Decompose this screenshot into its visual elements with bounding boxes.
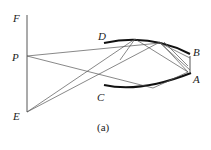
reflection-7 (160, 43, 190, 58)
label-f: F (12, 12, 20, 24)
reflection-6 (153, 72, 188, 88)
label-c: C (97, 91, 105, 103)
ray-e-1 (27, 39, 135, 112)
ray-diagram: F P E D C B A (a) (0, 0, 211, 150)
label-d: D (97, 30, 106, 42)
ray-p-lower (27, 56, 153, 88)
ray-p-upper (27, 43, 160, 56)
label-e: E (12, 110, 20, 122)
label-a: A (192, 73, 200, 85)
ray-e-2 (27, 42, 160, 112)
reflection-5 (120, 39, 135, 60)
lower-mirror-arc-ca (104, 73, 191, 87)
figure-caption: (a) (97, 121, 110, 134)
reflection-4 (164, 42, 188, 66)
label-b: B (193, 46, 200, 58)
label-p: P (11, 51, 19, 63)
